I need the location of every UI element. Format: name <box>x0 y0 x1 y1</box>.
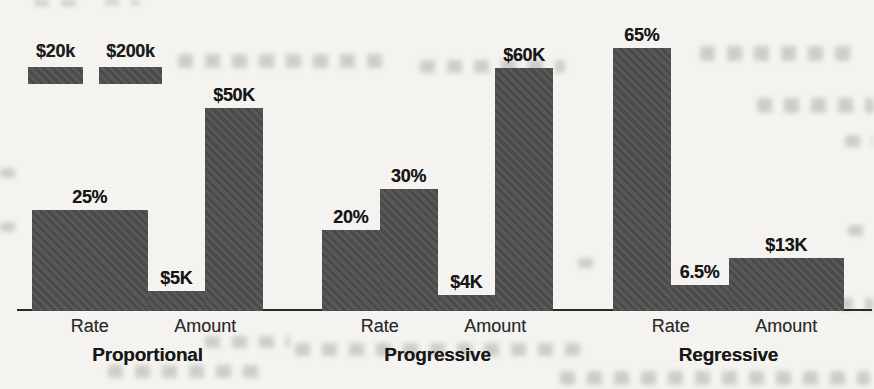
axis-label-regressive-amount: Amount <box>741 316 831 336</box>
bleed-through-mark <box>0 168 22 178</box>
legend-label-200k: $200k <box>99 40 162 62</box>
bleed-through-mark <box>0 222 16 232</box>
bleed-through-mark <box>757 98 874 113</box>
bar-regressive-amount-0 <box>729 258 845 311</box>
bleed-through-mark <box>178 54 393 68</box>
bar-value-label-proportional-rate-0: 25% <box>45 186 135 208</box>
bar-progressive-amount-0 <box>438 295 496 311</box>
axis-label-regressive-rate: Rate <box>626 316 716 336</box>
bleed-through-mark <box>560 371 870 385</box>
bar-progressive-rate-0 <box>322 230 380 311</box>
bleed-through-mark <box>108 365 263 378</box>
bar-value-label-proportional-amount-1: $50K <box>189 84 279 106</box>
bar-proportional-amount-1 <box>205 108 263 311</box>
axis-label-progressive-rate: Rate <box>335 316 425 336</box>
bar-value-label-regressive-rate-0: 65% <box>597 24 687 46</box>
bleed-through-mark <box>845 135 874 147</box>
bleed-through-mark <box>34 0 88 6</box>
axis-label-proportional-amount: Amount <box>160 316 250 336</box>
axis-label-progressive-amount: Amount <box>450 316 540 336</box>
legend-item-20k: $20k <box>28 40 83 84</box>
bar-value-label-regressive-amount-0: $13K <box>741 234 831 256</box>
scanned-book-figure: $20k $200k 25%Rate$5K$50KAmountProportio… <box>0 0 874 389</box>
bar-proportional-rate-0 <box>32 210 148 311</box>
bleed-through-mark <box>578 258 598 268</box>
legend-label-20k: $20k <box>28 40 83 62</box>
bar-value-label-progressive-rate-1: 30% <box>364 165 454 187</box>
group-title-regressive: Regressive <box>649 344 809 366</box>
bleed-through-mark <box>848 225 874 236</box>
bar-regressive-rate-1 <box>671 285 729 311</box>
bar-progressive-amount-1 <box>495 68 553 311</box>
legend-item-200k: $200k <box>99 40 162 84</box>
legend-swatch-200k <box>99 67 162 84</box>
bleed-through-mark <box>700 46 860 61</box>
group-title-progressive: Progressive <box>358 344 518 366</box>
bleed-through-mark <box>104 0 140 5</box>
bar-value-label-progressive-amount-1: $60K <box>479 44 569 66</box>
bar-proportional-amount-0 <box>148 291 206 311</box>
group-title-proportional: Proportional <box>68 344 228 366</box>
legend-swatch-20k <box>28 67 83 84</box>
axis-label-proportional-rate: Rate <box>45 316 135 336</box>
